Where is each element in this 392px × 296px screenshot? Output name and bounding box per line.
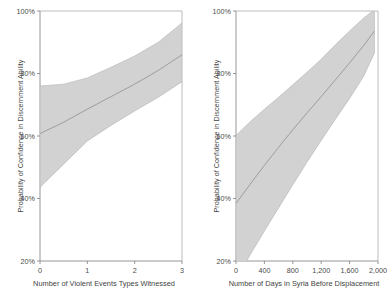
panel-days-in-syria: 20%40%60%80%100%04008001,2001,6002,000 P… — [196, 0, 392, 296]
x-tick-label: 0 — [38, 266, 42, 275]
x-tick-label: 0 — [234, 266, 238, 275]
x-tick-label: 3 — [180, 266, 184, 275]
x-axis-label-right: Number of Days in Syria Before Displacem… — [206, 279, 392, 288]
plot-area-days-in-syria: 20%40%60%80%100%04008001,2001,6002,000 — [196, 0, 392, 296]
confidence-interval-band — [40, 23, 182, 187]
plot-area-violent-events: 20%40%60%80%100%0123 — [0, 0, 196, 296]
y-axis-label-right: Probability of Confidence in Discernment… — [210, 11, 224, 261]
panel-violent-events: 20%40%60%80%100%0123 Probability of Conf… — [0, 0, 196, 296]
x-tick-label: 1 — [85, 266, 89, 275]
x-tick-label: 1,200 — [312, 266, 330, 275]
confidence-interval-band — [236, 10, 374, 281]
x-axis-label-left: Number of Violent Events Types Witnessed — [6, 279, 202, 288]
x-tick-label: 800 — [287, 266, 299, 275]
x-tick-label: 1,600 — [341, 266, 359, 275]
figure-two-panel-chart: 20%40%60%80%100%0123 Probability of Conf… — [0, 0, 392, 296]
x-tick-label: 2,000 — [369, 266, 387, 275]
x-tick-label: 2 — [133, 266, 137, 275]
y-axis-label-left: Probability of Confidence in Discernment… — [14, 11, 28, 261]
x-tick-label: 400 — [258, 266, 270, 275]
